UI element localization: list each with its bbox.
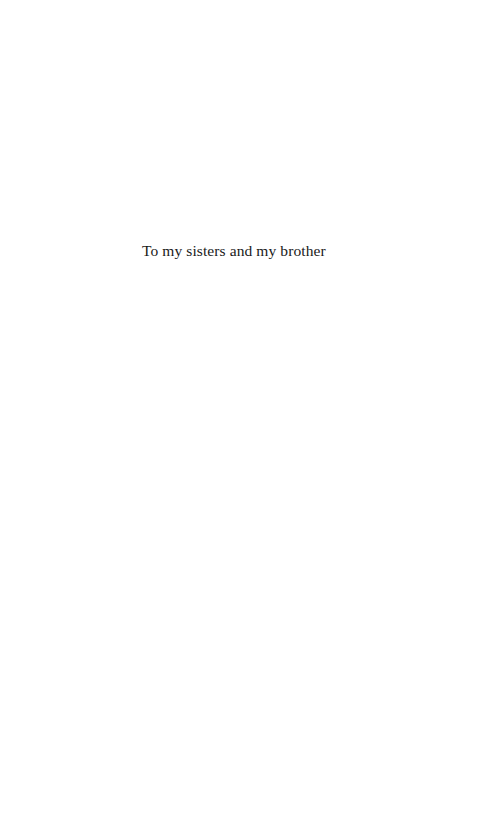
book-page: To my sisters and my brother	[0, 0, 481, 818]
dedication-text: To my sisters and my brother	[142, 242, 326, 260]
